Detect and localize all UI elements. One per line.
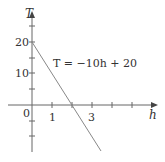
y-tick-label-10: 10 <box>15 67 29 80</box>
chart: T h 20 10 0 1 3 T = −10h + 20 <box>0 0 165 162</box>
x-tick-label-1: 1 <box>49 111 56 124</box>
x-axis-label: h <box>149 108 157 122</box>
equation-label: T = −10h + 20 <box>53 57 137 70</box>
x-tick-label-0: 0 <box>23 107 30 120</box>
y-tick-label-20: 20 <box>15 36 29 49</box>
y-axis-label: T <box>25 7 34 21</box>
x-tick-label-3: 3 <box>88 111 95 124</box>
